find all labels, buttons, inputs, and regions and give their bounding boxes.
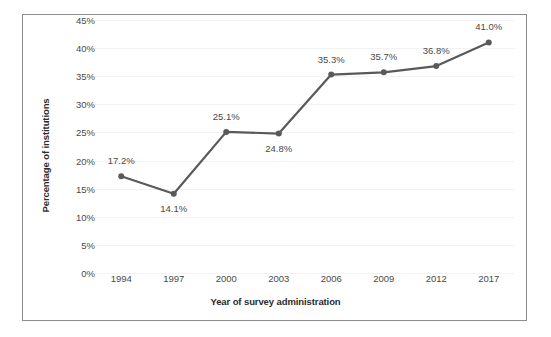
- x-axis-tick-labels: 19941997200020032006200920122017: [23, 273, 528, 293]
- chart-figure: Percentage of institutions 45%40%35%30%2…: [0, 0, 551, 337]
- x-tick-label: 2009: [354, 273, 414, 284]
- data-point-marker: [328, 72, 334, 78]
- x-tick-label: 2000: [196, 273, 256, 284]
- y-tick-label: 45%: [49, 15, 95, 26]
- x-tick-label: 1997: [144, 273, 204, 284]
- data-point-label: 36.8%: [404, 45, 468, 56]
- x-tick-label: 1994: [91, 273, 151, 284]
- y-tick-label: 5%: [49, 239, 95, 250]
- y-tick-label: 20%: [49, 155, 95, 166]
- data-point-marker: [486, 39, 492, 45]
- x-tick-label: 2003: [249, 273, 309, 284]
- y-tick-label: 40%: [49, 43, 95, 54]
- data-point-marker: [118, 173, 124, 179]
- y-tick-label: 25%: [49, 127, 95, 138]
- y-tick-label: 35%: [49, 71, 95, 82]
- plot-area: 17.2%14.1%25.1%24.8%35.3%35.7%36.8%41.0%: [95, 20, 515, 273]
- data-point-marker: [171, 191, 177, 197]
- x-axis-title: Year of survey administration: [23, 296, 528, 307]
- y-tick-label: 10%: [49, 211, 95, 222]
- data-point-label: 25.1%: [194, 111, 258, 122]
- data-point-marker: [433, 63, 439, 69]
- x-tick-label: 2017: [459, 273, 519, 284]
- data-point-marker: [276, 131, 282, 137]
- data-point-marker: [381, 69, 387, 75]
- y-tick-label: 30%: [49, 99, 95, 110]
- data-point-label: 24.8%: [247, 143, 311, 154]
- data-point-marker: [223, 129, 229, 135]
- x-tick-label: 2006: [301, 273, 361, 284]
- data-point-label: 41.0%: [457, 21, 521, 32]
- y-tick-label: 15%: [49, 183, 95, 194]
- x-tick-label: 2012: [406, 273, 466, 284]
- data-point-label: 14.1%: [142, 203, 206, 214]
- data-point-label: 17.2%: [89, 155, 153, 166]
- chart-frame: Percentage of institutions 45%40%35%30%2…: [22, 14, 527, 321]
